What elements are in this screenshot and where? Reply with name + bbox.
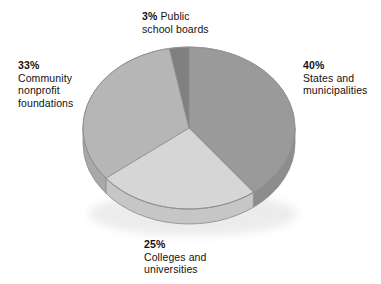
slice-label-colleges-and-universities: 25% Colleges and universities bbox=[144, 238, 207, 276]
slice-label-states-and-municipalities: 40% States and municipalities bbox=[303, 59, 367, 97]
slice-desc-public-line1: Public bbox=[160, 10, 189, 22]
slice-percent-states: 40% bbox=[303, 59, 367, 72]
slice-label-community-nonprofit-foundations: 33% Community nonprofit foundations bbox=[18, 59, 73, 109]
slice-desc-community-line1: Community bbox=[18, 72, 73, 85]
slice-percent-colleges: 25% bbox=[144, 238, 207, 251]
slice-desc-public-line2: school boards bbox=[142, 23, 209, 36]
slice-desc-colleges-line1: Colleges and bbox=[144, 251, 207, 264]
slice-desc-community-line2: nonprofit bbox=[18, 84, 73, 97]
slice-desc-states-line2: municipalities bbox=[303, 84, 367, 97]
slice-desc-community-line3: foundations bbox=[18, 97, 73, 110]
slice-percent-community: 33% bbox=[18, 59, 73, 72]
pie-chart-figure: 3% Public school boards 40% States and m… bbox=[0, 0, 381, 284]
slice-label-public-school-boards: 3% Public school boards bbox=[142, 10, 209, 35]
slice-desc-colleges-line2: universities bbox=[144, 263, 207, 276]
slice-percent-public: 3% bbox=[142, 10, 157, 22]
slice-desc-states-line1: States and bbox=[303, 72, 367, 85]
pie-top-faces bbox=[83, 47, 295, 209]
